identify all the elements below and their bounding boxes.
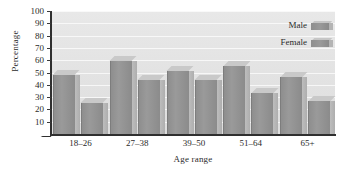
bar-front-face: [53, 75, 76, 134]
legend-swatch-icon: [311, 38, 333, 47]
y-tick-label: 60: [35, 56, 44, 65]
x-axis-tick-labels: 18–2627–3839–5051–6465+: [51, 138, 335, 152]
y-tick-mark: [47, 48, 51, 49]
bar-front-face: [81, 103, 104, 134]
bar-male-4: [280, 72, 307, 134]
y-tick-mark: [47, 109, 51, 110]
bar-side-face: [273, 93, 278, 134]
y-tick-label: 40: [35, 80, 44, 89]
x-axis-title: Age range: [51, 154, 335, 164]
x-tick-label: 39–50: [183, 138, 206, 148]
y-tick-mark: [47, 36, 51, 37]
y-tick-label: 80: [35, 31, 44, 40]
bar-side-face: [75, 75, 80, 134]
y-tick-mark: [47, 85, 51, 86]
x-tick-label: 27–38: [126, 138, 149, 148]
bar-chart: Percentage 102030405060708090100 18–2627…: [0, 0, 341, 175]
bar-side-face: [189, 71, 194, 134]
bar-side-face: [302, 77, 307, 134]
x-tick-label: 51–64: [240, 138, 263, 148]
bar-front-face: [195, 80, 218, 134]
y-tick-label: 20: [35, 105, 44, 114]
bar-side-face: [160, 80, 165, 134]
bar-male-3: [223, 61, 250, 134]
bar-female-3: [251, 88, 278, 134]
bar-female-2: [195, 75, 222, 134]
y-tick-mark: [47, 11, 51, 12]
bar-side-face: [217, 80, 222, 134]
x-axis-line: [50, 134, 336, 136]
y-tick-mark: [47, 23, 51, 24]
bar-front-face: [223, 66, 246, 134]
y-tick-label: 100: [31, 7, 45, 16]
bar-male-1: [110, 56, 137, 134]
y-tick-label: 90: [35, 19, 44, 28]
bar-front-face: [280, 77, 303, 134]
bar-front-face: [167, 71, 190, 134]
bar-side-face: [132, 61, 137, 134]
legend-label: Male: [289, 20, 308, 30]
bar-front-face: [138, 80, 161, 134]
bar-side-face: [245, 66, 250, 134]
legend-item-male: Male: [245, 18, 333, 32]
bar-top-face: [308, 96, 335, 101]
y-tick-label: 10: [35, 117, 44, 126]
bar-female-0: [81, 98, 108, 134]
bar-female-4: [308, 96, 335, 134]
legend: MaleFemale: [245, 18, 333, 52]
y-axis-tick-labels: 102030405060708090100: [22, 0, 46, 175]
y-tick-label: 30: [35, 93, 44, 102]
bar-front-face: [251, 93, 274, 134]
bar-side-face: [103, 103, 108, 134]
bar-male-0: [53, 70, 80, 134]
bar-side-face: [330, 101, 335, 134]
y-tick-mark: [47, 97, 51, 98]
bar-front-face: [308, 101, 331, 134]
bar-front-face: [110, 61, 133, 134]
y-tick-mark: [47, 73, 51, 74]
legend-label: Female: [281, 37, 308, 47]
bar-male-2: [167, 66, 194, 134]
y-tick-label: 50: [35, 68, 44, 77]
x-tick-label: 65+: [301, 138, 315, 148]
legend-item-female: Female: [245, 35, 333, 49]
bar-female-1: [138, 75, 165, 134]
x-tick-label: 18–26: [69, 138, 92, 148]
y-axis-title: Percentage: [10, 11, 20, 91]
y-tick-mark: [47, 122, 51, 123]
legend-swatch-icon: [311, 21, 333, 30]
y-tick-mark: [47, 60, 51, 61]
y-tick-label: 70: [35, 43, 44, 52]
